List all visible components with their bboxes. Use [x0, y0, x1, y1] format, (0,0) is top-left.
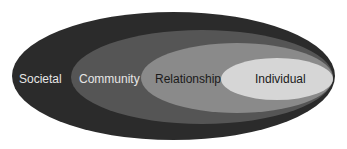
- societal-label: Societal: [19, 72, 62, 86]
- individual-label: Individual: [255, 72, 306, 86]
- relationship-label: Relationship: [155, 72, 221, 86]
- community-label: Community: [79, 72, 140, 86]
- social-ecological-diagram: Societal Community Relationship Individu…: [0, 0, 347, 149]
